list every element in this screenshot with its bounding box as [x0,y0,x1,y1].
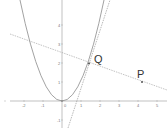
x-tick-labels: -2 -1 0 1 2 3 4 5 [22,103,159,108]
point-origin [61,100,63,102]
svg-text:4: 4 [58,23,61,28]
svg-text:5: 5 [156,103,159,108]
svg-text:3: 3 [58,42,61,47]
y-tick-labels: -1 1 2 3 4 [57,23,61,123]
graph-plot: -2 -1 0 1 2 3 4 5 -1 1 2 3 4 Q P [0,0,167,128]
svg-text:0: 0 [64,103,67,108]
label-p: P [137,68,144,80]
line-qp [10,34,167,90]
svg-text:2: 2 [99,103,102,108]
svg-text:1: 1 [80,103,83,108]
svg-text:1: 1 [58,80,61,85]
svg-text:-2: -2 [22,103,26,108]
point-p[interactable] [141,81,143,83]
svg-text:-1: -1 [41,103,45,108]
svg-text:4: 4 [137,103,140,108]
svg-text:2: 2 [58,61,61,66]
svg-text:3: 3 [118,103,121,108]
label-q: Q [94,53,103,65]
point-q[interactable] [88,63,90,65]
svg-text:-1: -1 [57,118,61,123]
